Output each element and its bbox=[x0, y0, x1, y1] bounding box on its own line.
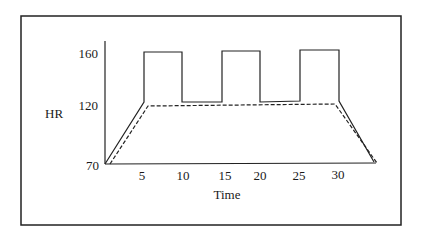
x-tick-20: 20 bbox=[254, 168, 267, 183]
dashed-series-line bbox=[110, 104, 377, 164]
x-axis bbox=[105, 163, 376, 164]
x-axis-label: Time bbox=[214, 187, 241, 202]
y-tick-70: 70 bbox=[86, 158, 99, 173]
x-tick-30: 30 bbox=[332, 167, 345, 182]
y-axis-label: HR bbox=[45, 106, 63, 121]
x-tick-25: 25 bbox=[293, 168, 306, 183]
y-tick-160: 160 bbox=[79, 46, 99, 61]
y-tick-120: 120 bbox=[79, 98, 99, 113]
x-tick-5: 5 bbox=[139, 168, 146, 183]
x-tick-15: 15 bbox=[219, 168, 232, 183]
x-tick-10: 10 bbox=[177, 168, 190, 183]
solid-series-line bbox=[105, 50, 374, 164]
chart: 160 120 70 HR 5 10 15 20 25 30 Time bbox=[0, 0, 422, 239]
